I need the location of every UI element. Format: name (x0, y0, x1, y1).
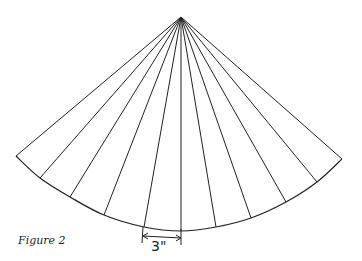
cone-pattern-diagram: 3" (0, 0, 362, 261)
fan-ray (104, 17, 181, 215)
fan-ray (40, 17, 181, 178)
fan-ray (181, 17, 251, 218)
fan-ray (181, 17, 317, 182)
fan-ray (16, 17, 181, 156)
fan-ray (181, 17, 342, 159)
fan-ray (70, 17, 181, 197)
dimension-tick-left (142, 227, 143, 243)
fan-ray (144, 17, 181, 227)
figure-caption: Figure 2 (18, 234, 66, 247)
fan-arc (16, 156, 342, 231)
fan-rays (16, 17, 342, 231)
dimension-label: 3" (151, 238, 166, 254)
figure-canvas: 3" Figure 2 (0, 0, 362, 261)
